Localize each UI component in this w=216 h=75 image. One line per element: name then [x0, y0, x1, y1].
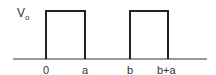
x-label-b: b: [127, 65, 133, 75]
pulse-1: [46, 11, 85, 59]
x-label-b-plus-a: b+a: [157, 65, 176, 75]
pulse-diagram: [0, 0, 216, 75]
x-label-a: a: [82, 65, 88, 75]
y-label: Vo: [17, 7, 29, 22]
y-label-main: V: [17, 6, 25, 20]
y-label-sub: o: [25, 13, 29, 22]
x-label-0: 0: [43, 65, 49, 75]
pulse-2: [130, 11, 168, 59]
